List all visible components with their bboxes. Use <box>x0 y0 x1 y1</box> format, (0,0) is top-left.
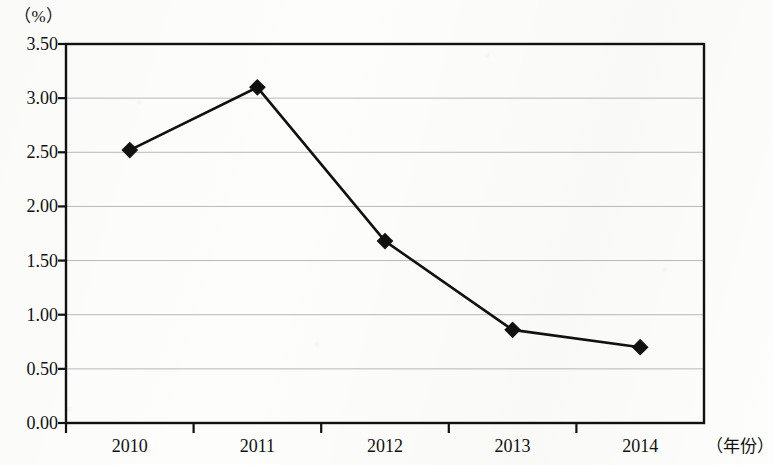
line-chart-figure: （%） （年份） 0.000.501.001.502.002.503.003.5… <box>0 0 773 465</box>
data-point-marker[interactable] <box>122 143 137 158</box>
data-point-marker[interactable] <box>505 322 520 337</box>
data-series-line <box>130 87 640 347</box>
data-point-marker[interactable] <box>633 340 648 355</box>
plot-area <box>0 0 773 465</box>
